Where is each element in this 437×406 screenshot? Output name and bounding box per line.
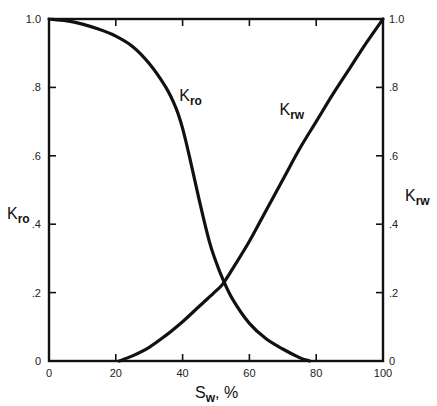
y-tick-label-right: .2 — [389, 287, 398, 299]
y-tick-label-left: 0 — [35, 355, 41, 367]
x-tick-label: 100 — [374, 367, 392, 379]
y-tick-label-left: .8 — [32, 81, 41, 93]
y-axis-right-label: Krw — [405, 187, 430, 208]
x-tick-label: 40 — [176, 367, 188, 379]
y-tick-label-right: 1.0 — [389, 13, 404, 25]
axis-tick-labels: 02040608010000.2.2.4.4.6.6.8.81.01.0 — [26, 13, 405, 379]
y-tick-label-left: .2 — [32, 287, 41, 299]
x-tick-label: 20 — [110, 367, 122, 379]
y-tick-label-left: .6 — [32, 150, 41, 162]
x-tick-label: 80 — [310, 367, 322, 379]
relative-permeability-chart: 02040608010000.2.2.4.4.6.6.8.81.01.0 Kro… — [0, 0, 437, 406]
kro-curve — [49, 19, 310, 361]
x-tick-label: 0 — [46, 367, 52, 379]
y-tick-label-right: .6 — [389, 150, 398, 162]
krw-curve — [119, 19, 383, 361]
y-tick-label-right: .8 — [389, 81, 398, 93]
x-tick-label: 60 — [243, 367, 255, 379]
y-tick-label-left: .4 — [32, 218, 41, 230]
y-tick-label-left: 1.0 — [26, 13, 41, 25]
y-tick-label-right: .4 — [389, 218, 398, 230]
axis-ticks — [49, 19, 383, 361]
krw-curve-label: Krw — [279, 101, 304, 122]
y-axis-left-label: Kro — [7, 205, 30, 226]
kro-curve-label: Kro — [179, 87, 202, 108]
plot-frame — [49, 19, 383, 361]
y-tick-label-right: 0 — [389, 355, 395, 367]
x-axis-label: Sw, % — [195, 384, 238, 405]
